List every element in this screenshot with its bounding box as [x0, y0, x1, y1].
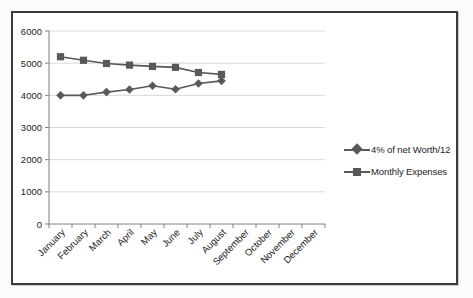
square-marker-icon: [344, 165, 370, 179]
legend-item-net-worth: 4% of net Worth/12: [344, 139, 456, 161]
svg-text:0: 0: [37, 219, 42, 230]
chart-legend: 4% of net Worth/12 Monthly Expenses: [344, 139, 456, 183]
y-axis-ticks: [45, 31, 49, 224]
legend-label-net-worth: 4% of net Worth/12: [370, 145, 450, 155]
gridlines: [49, 31, 325, 192]
series-markers: [56, 53, 226, 99]
y-axis-tick-labels: 0100020003000400050006000: [21, 26, 42, 230]
legend-item-monthly-expenses: Monthly Expenses: [344, 161, 456, 183]
chart-frame: 0100020003000400050006000 JanuaryFebruar…: [11, 11, 458, 285]
svg-text:March: March: [86, 227, 112, 253]
svg-text:June: June: [160, 227, 182, 249]
svg-text:May: May: [138, 226, 159, 247]
svg-text:5000: 5000: [21, 58, 42, 69]
svg-text:3000: 3000: [21, 122, 42, 133]
svg-text:April: April: [115, 227, 136, 248]
x-axis-tick-labels: JanuaryFebruaryMarchAprilMayJuneJulyAugu…: [35, 226, 320, 267]
svg-text:6000: 6000: [21, 26, 42, 37]
svg-text:1000: 1000: [21, 186, 42, 197]
diamond-marker-icon: [344, 143, 370, 157]
svg-text:2000: 2000: [21, 154, 42, 165]
screenshot-root: 0100020003000400050006000 JanuaryFebruar…: [0, 0, 473, 298]
x-axis-ticks: [49, 224, 325, 228]
chart-canvas: 0100020003000400050006000 JanuaryFebruar…: [13, 13, 456, 283]
svg-text:4000: 4000: [21, 90, 42, 101]
legend-label-monthly-expenses: Monthly Expenses: [370, 167, 447, 177]
